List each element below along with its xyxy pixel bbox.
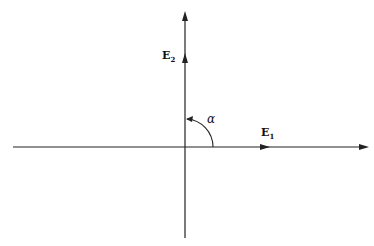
vertical-axis-arrowhead [182, 11, 188, 21]
angle-arc-arrowhead [186, 116, 193, 122]
e2-label: E2 [162, 49, 175, 64]
e2-arrowhead [182, 53, 188, 63]
e1-arrowhead [260, 144, 270, 150]
axes-diagram [0, 0, 374, 246]
alpha-label: α [207, 112, 215, 126]
horizontal-axis-arrowhead [359, 144, 369, 150]
e1-label: E1 [261, 126, 274, 141]
